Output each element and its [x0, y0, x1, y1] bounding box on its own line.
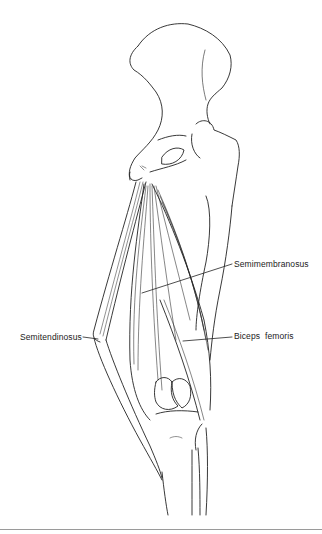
semimembranosus-muscle: [130, 184, 190, 420]
label-biceps-femoris: Biceps femoris: [234, 331, 294, 341]
label-semimembranosus: Semimembranosus: [234, 259, 309, 269]
semitendinosus-muscle: [93, 182, 162, 480]
biceps-femoris-muscle: [152, 184, 211, 420]
label-semitendinosus: Semitendinosus: [20, 332, 82, 342]
femur-outline: [191, 121, 239, 360]
leader-semitendinosus: [83, 337, 98, 339]
pelvis-outline: [129, 24, 231, 180]
bottom-divider: [0, 529, 322, 530]
leg-bones: [162, 428, 208, 515]
ischial-tuberosity: [129, 166, 146, 181]
leader-lines: [83, 264, 232, 341]
